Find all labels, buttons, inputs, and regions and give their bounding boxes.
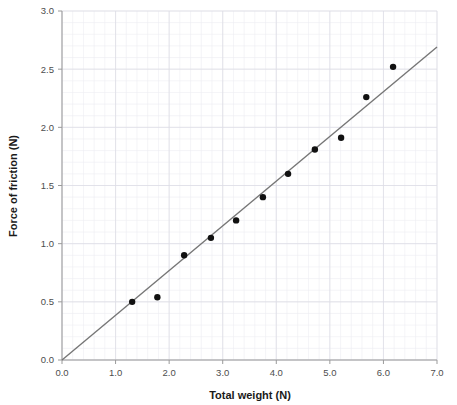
y-tick-label: 2.0 [41, 122, 54, 133]
x-tick-label: 5.0 [323, 367, 336, 378]
x-axis-title: Total weight (N) [209, 389, 291, 401]
y-tick-label: 3.0 [41, 5, 54, 16]
data-point [260, 194, 266, 200]
data-point [129, 299, 135, 305]
y-tick-label: 1.0 [41, 238, 54, 249]
data-point [338, 135, 344, 141]
data-point [285, 171, 291, 177]
x-tick-label: 2.0 [163, 367, 176, 378]
data-point [390, 64, 396, 70]
data-point [312, 146, 318, 152]
y-tick-label: 2.5 [41, 64, 54, 75]
data-point [233, 217, 239, 223]
data-point [208, 235, 214, 241]
x-tick-label: 4.0 [270, 367, 283, 378]
y-tick-label: 0.0 [41, 354, 54, 365]
chart-figure: 0.01.02.03.04.05.06.07.0 0.00.51.01.52.0… [0, 0, 457, 405]
x-tick-label: 7.0 [430, 367, 443, 378]
y-tick-label: 1.5 [41, 180, 54, 191]
x-tick-label: 0.0 [55, 367, 68, 378]
data-point [363, 94, 369, 100]
y-axis-title: Force of friction (N) [7, 135, 19, 237]
y-tick-label: 0.5 [41, 296, 54, 307]
data-point [154, 294, 160, 300]
x-tick-label: 6.0 [377, 367, 390, 378]
x-tick-label: 1.0 [109, 367, 122, 378]
x-tick-label: 3.0 [216, 367, 229, 378]
scatter-plot: 0.01.02.03.04.05.06.07.0 0.00.51.01.52.0… [0, 0, 457, 405]
figure-background [0, 0, 457, 405]
data-point [181, 252, 187, 258]
